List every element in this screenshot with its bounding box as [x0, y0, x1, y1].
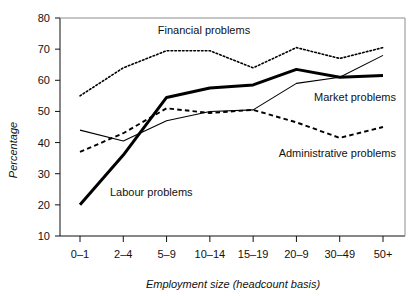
series-label-labour-problems: Labour problems	[110, 186, 193, 198]
x-tick-label: 20–9	[284, 248, 308, 260]
y-axis-title: Percentage	[7, 122, 19, 178]
y-tick-label: 60	[38, 74, 50, 86]
series-label-financial-problems: Financial problems	[158, 24, 251, 36]
series-line-financial-problems	[80, 48, 383, 96]
x-axis-ticks: 0–12–45–910–1415–1920–930–4950+	[71, 236, 393, 260]
x-tick-label: 50+	[374, 248, 393, 260]
x-tick-label: 5–9	[157, 248, 175, 260]
plot-frame	[60, 18, 405, 236]
y-tick-label: 40	[38, 137, 50, 149]
line-chart: 1020304050607080 0–12–45–910–1415–1920–9…	[0, 0, 419, 296]
series-label-market-problems: Market problems	[314, 91, 396, 103]
chart-container: 1020304050607080 0–12–45–910–1415–1920–9…	[0, 0, 419, 296]
y-tick-label: 80	[38, 12, 50, 24]
x-tick-label: 30–49	[324, 248, 355, 260]
x-tick-label: 15–19	[238, 248, 269, 260]
y-tick-label: 70	[38, 43, 50, 55]
x-tick-label: 10–14	[195, 248, 226, 260]
y-tick-label: 10	[38, 230, 50, 242]
series-line-administrative-problems	[80, 108, 383, 152]
series-layer	[80, 48, 383, 205]
series-label-administrative-problems: Administrative problems	[279, 147, 397, 159]
x-tick-label: 2–4	[114, 248, 132, 260]
series-annotations: Financial problemsMarket problemsAdminis…	[110, 24, 396, 198]
x-axis-title: Employment size (headcount basis)	[146, 278, 321, 290]
y-tick-label: 30	[38, 168, 50, 180]
y-tick-label: 50	[38, 105, 50, 117]
y-tick-label: 20	[38, 199, 50, 211]
x-tick-label: 0–1	[71, 248, 89, 260]
y-axis-ticks: 1020304050607080	[38, 12, 60, 242]
